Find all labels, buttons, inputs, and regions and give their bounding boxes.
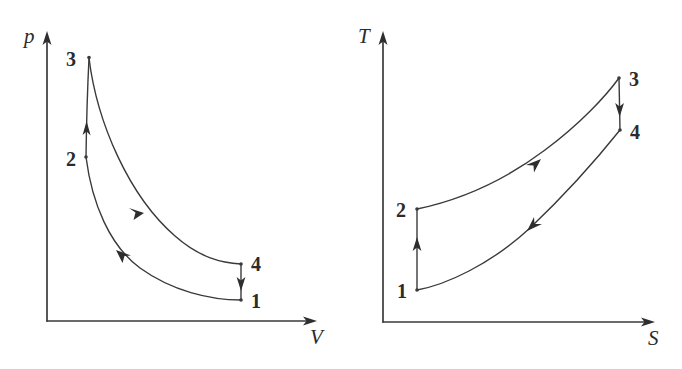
- ts-state-dot-3: [617, 76, 621, 80]
- pv-process-2-3: [86, 58, 89, 157]
- ts-process-2-3: [417, 78, 619, 209]
- pv-process-3-4: [89, 58, 241, 264]
- ts-y-axis-label: T: [358, 24, 371, 48]
- ts-state-label-3: 3: [629, 68, 639, 90]
- diagram-canvas: p V 3 2 4 1: [0, 0, 682, 369]
- pv-y-axis-label: p: [22, 24, 35, 48]
- pv-state-dot-4: [239, 262, 243, 266]
- pv-diagram: p V 3 2 4 1: [22, 24, 325, 349]
- ts-state-label-2: 2: [396, 199, 406, 221]
- ts-process-3-4: [619, 78, 620, 130]
- pv-state-dot-1: [239, 298, 243, 302]
- pv-x-axis-label: V: [310, 325, 325, 349]
- pv-state-label-1: 1: [251, 290, 261, 312]
- ts-state-label-4: 4: [630, 121, 640, 143]
- pv-state-dot-3: [87, 56, 91, 60]
- ts-diagram: T S 3 4 2 1: [358, 24, 659, 350]
- pv-process-1-2: [86, 157, 241, 300]
- cycle-diagram-figure: p V 3 2 4 1: [0, 0, 682, 369]
- ts-state-dot-1: [415, 288, 419, 292]
- pv-process-3-4-arrow-icon: [129, 208, 144, 220]
- ts-state-dot-4: [618, 128, 622, 132]
- pv-state-dot-2: [84, 155, 88, 159]
- ts-x-axis-label: S: [648, 326, 659, 350]
- ts-state-label-1: 1: [397, 280, 407, 302]
- pv-state-label-2: 2: [66, 148, 76, 170]
- pv-state-label-4: 4: [251, 253, 261, 275]
- ts-state-dot-2: [415, 207, 419, 211]
- pv-state-label-3: 3: [66, 48, 76, 70]
- ts-process-4-1: [417, 130, 620, 290]
